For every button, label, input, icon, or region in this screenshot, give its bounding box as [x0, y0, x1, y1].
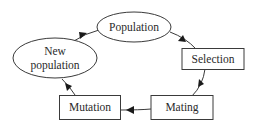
node-new-population-label-line1: New [44, 45, 66, 57]
node-population-label: Population [109, 21, 159, 34]
arrowhead-icon [79, 32, 87, 39]
node-mating: Mating [151, 96, 213, 120]
node-selection-label: Selection [192, 53, 235, 65]
edge-mating-to-mutation [120, 106, 151, 114]
node-population: Population [97, 12, 171, 42]
node-mutation-label: Mutation [69, 101, 111, 113]
edge-selection-to-mating [192, 69, 205, 96]
arrowhead-icon [198, 79, 204, 87]
edge-population-to-selection [170, 32, 196, 49]
genetic-algorithm-cycle-diagram: Population Selection Mating Mutation New… [0, 0, 258, 128]
node-new-population-label-line2: population [30, 59, 79, 72]
node-mating-label: Mating [165, 101, 198, 114]
arrowhead-icon [126, 106, 134, 114]
node-new-population: New population [13, 38, 97, 78]
node-mutation: Mutation [60, 96, 121, 120]
node-selection: Selection [182, 49, 244, 70]
edge-mutation-to-new-population [62, 79, 75, 95]
